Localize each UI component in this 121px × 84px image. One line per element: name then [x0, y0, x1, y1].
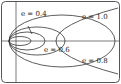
label-e08: e = 0.8 — [82, 57, 108, 65]
label-e04: e = 0.4 — [21, 10, 47, 18]
label-e10: e = 1.0 — [82, 13, 108, 21]
conic-eccentricity-diagram: e = 0.4 e = 1.0 e = 0.6 e = 0.8 — [0, 0, 121, 84]
label-e06: e = 0.6 — [44, 46, 70, 54]
diagram-canvas: e = 0.4 e = 1.0 e = 0.6 e = 0.8 — [0, 0, 121, 84]
